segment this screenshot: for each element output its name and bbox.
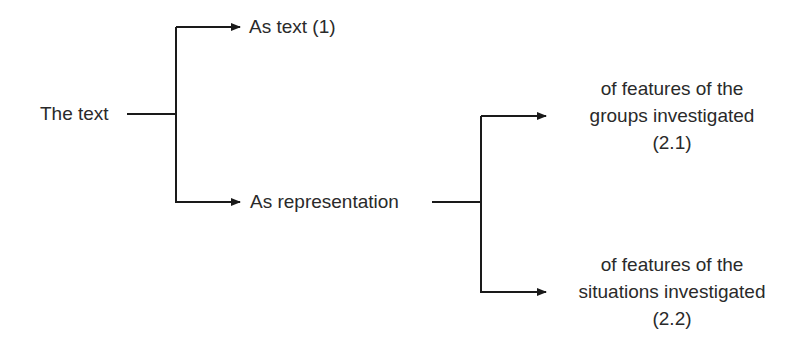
leaf-situations-line-2: situations investigated xyxy=(579,278,766,305)
leaf-situations-investigated: of features of the situations investigat… xyxy=(579,251,766,332)
leaf-groups-investigated: of features of the groups investigated (… xyxy=(590,75,755,156)
root-label: The text xyxy=(40,100,109,127)
branch-as-text-label: As text (1) xyxy=(249,13,336,40)
leaf-groups-line-3: (2.1) xyxy=(590,129,755,156)
branch-as-representation-label: As representation xyxy=(250,188,399,215)
leaf-groups-line-1: of features of the xyxy=(590,75,755,102)
leaf-groups-line-2: groups investigated xyxy=(590,102,755,129)
leaf-situations-line-1: of features of the xyxy=(579,251,766,278)
leaf-situations-line-3: (2.2) xyxy=(579,305,766,332)
